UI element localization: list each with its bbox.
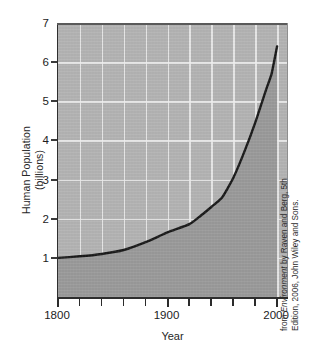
y-axis-tick-label: 7 <box>29 17 49 29</box>
credit-suffix: by Raven and Berg, 5th <box>280 178 289 266</box>
x-axis-minor-tick-mark <box>254 298 256 306</box>
x-axis-minor-tick-mark <box>123 298 125 306</box>
x-axis-minor-tick-mark <box>101 298 103 306</box>
x-axis-tick-label: 1900 <box>154 309 180 321</box>
source-credit-line2: Edition, 2006, John Wiley and Sons. <box>291 116 302 331</box>
x-axis-minor-tick-mark <box>210 298 212 306</box>
y-axis-tick-label: 5 <box>29 95 49 107</box>
x-axis-minor-tick-mark <box>79 298 81 306</box>
paper-grain-texture <box>58 23 288 297</box>
x-axis-tick-marks <box>57 298 288 307</box>
x-axis-major-tick-mark <box>167 298 169 307</box>
y-axis-tick-label: 4 <box>29 134 49 146</box>
x-axis-title: Year <box>57 330 288 342</box>
y-axis-tick-label: 1 <box>29 252 49 264</box>
source-credit-line1: from Environment by Raven and Berg, 5th <box>280 116 291 331</box>
x-axis-major-tick-mark <box>57 298 59 307</box>
x-axis-minor-tick-mark <box>232 298 234 306</box>
credit-book-title: Environment <box>280 266 289 312</box>
y-axis-tick-label: 6 <box>29 56 49 68</box>
credit-prefix: from <box>280 312 289 331</box>
y-axis-tick-labels: 1234567 <box>27 0 49 358</box>
y-axis-tick-label: 2 <box>29 213 49 225</box>
source-credit: from Environment by Raven and Berg, 5th … <box>280 116 301 331</box>
x-axis-tick-labels: 180019002000 <box>57 309 288 325</box>
y-axis-tick-label: 3 <box>29 174 49 186</box>
x-axis-major-tick-mark <box>276 298 278 307</box>
x-axis-tick-label: 1800 <box>44 309 70 321</box>
x-axis-minor-tick-mark <box>188 298 190 306</box>
plot-area <box>57 23 288 297</box>
x-axis-minor-tick-mark <box>145 298 147 306</box>
population-growth-chart: Human Population (billions) 1234567 1800… <box>0 0 331 358</box>
